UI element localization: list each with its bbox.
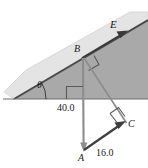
point-C-label: C xyxy=(128,119,135,129)
point-B-label: B xyxy=(74,44,80,54)
angle-theta-label: θ xyxy=(37,80,42,90)
figure-canvas xyxy=(0,0,148,168)
segment-AC-arrow xyxy=(84,121,126,150)
vector-E-label: E xyxy=(110,19,117,30)
right-angle-marker-C xyxy=(110,108,125,117)
point-A-label: A xyxy=(78,153,84,163)
length-40-label: 40.0 xyxy=(57,103,75,113)
length-16-label: 16.0 xyxy=(96,148,114,158)
right-angle-marker-C-close xyxy=(110,114,117,123)
physics-figure-inclined-plane: E B θ 40.0 C A 16.0 xyxy=(0,0,148,168)
